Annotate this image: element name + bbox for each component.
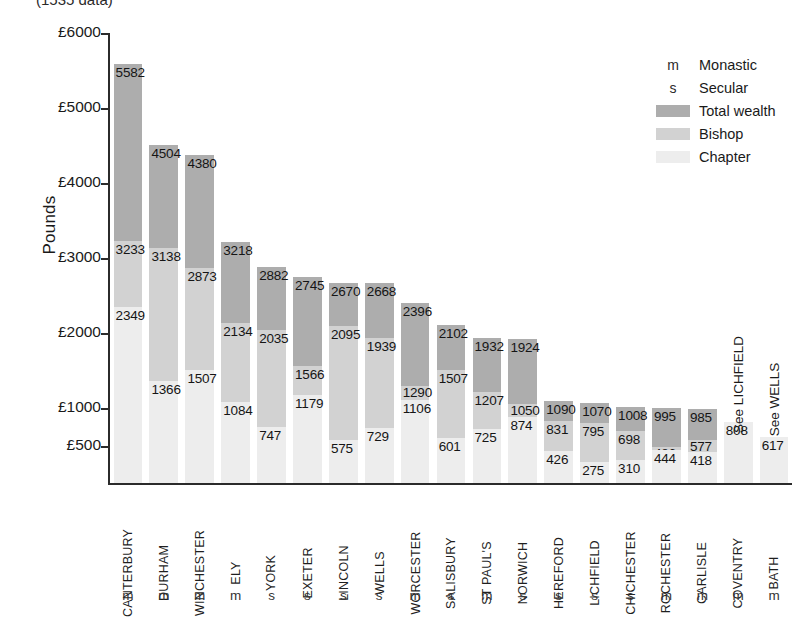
bar-segment-bishop[interactable]: 1290	[401, 386, 430, 400]
bar-segment-bishop[interactable]: 2095	[329, 326, 358, 440]
bar-segment-value: 1008	[618, 408, 647, 423]
bar-column[interactable]: 1070795275	[580, 33, 609, 483]
y-tick-label: £2000	[5, 323, 101, 341]
bar-column[interactable]: 239612901106	[401, 33, 430, 483]
bar-segment-chapter[interactable]: 310	[616, 460, 645, 483]
bar-column[interactable]: 558232332349	[114, 33, 143, 483]
bar-segment-bishop[interactable]: 831	[544, 421, 573, 451]
bar-segment-bishop[interactable]: 1566	[293, 366, 322, 395]
bar-segment-value: 874	[510, 418, 532, 433]
bar-segment-bishop[interactable]: 795	[580, 423, 609, 462]
x-axis-label: SALISBURY	[433, 488, 469, 580]
bar-segment-total[interactable]: 1090	[544, 401, 573, 420]
x-axis-label: DURHAM	[146, 488, 182, 580]
y-tick-mark	[101, 333, 110, 335]
legend-swatch-wrap	[655, 128, 691, 140]
bar-segment-total[interactable]: 2396	[401, 303, 430, 386]
bar-segment-chapter[interactable]: 444	[652, 450, 681, 483]
bar-segment-chapter[interactable]: 725	[473, 429, 502, 483]
bar-segment-bishop[interactable]: 2873	[185, 268, 214, 370]
bar-segment-chapter[interactable]: 426	[544, 451, 573, 483]
bar-segment-chapter[interactable]: 575	[329, 440, 358, 483]
bar-segment-chapter[interactable]: 1366	[149, 381, 178, 483]
bar-column[interactable]: 19241050874	[508, 33, 537, 483]
bar-segment-value: 1507	[439, 371, 468, 386]
bar-segment-chapter[interactable]: 601	[437, 438, 466, 483]
bar-segment-total[interactable]: 1924	[508, 339, 537, 405]
category-type-marker: s	[254, 588, 290, 603]
y-tick-mark	[101, 108, 110, 110]
bar-segment-total[interactable]: 2102	[437, 325, 466, 370]
bar-column[interactable]: 1008698310	[616, 33, 645, 483]
bar-segment-value: 3218	[223, 243, 252, 258]
bar-segment-chapter[interactable]: 1084	[221, 402, 250, 483]
bar-segment-value: 601	[439, 439, 461, 454]
bar-segment-total[interactable]: 5582	[114, 64, 143, 240]
bar-segment-total[interactable]: 2668	[365, 283, 394, 338]
x-axis-label: CANTERBURY	[110, 488, 146, 580]
bar-segment-bishop[interactable]: 698	[616, 431, 645, 460]
bar-segment-total[interactable]: 995	[652, 408, 681, 446]
bar-segment-total[interactable]: 4504	[149, 145, 178, 247]
bar-segment-bishop[interactable]: 1507	[437, 370, 466, 438]
bar-segment-chapter[interactable]: 617	[760, 437, 789, 483]
bar-column[interactable]: 1090831426	[544, 33, 573, 483]
chart-legend: mMonasticsSecularTotal wealthBishopChapt…	[655, 53, 795, 168]
bar-segment-bishop[interactable]: 577	[688, 440, 717, 452]
bar-segment-total[interactable]: 1932	[473, 338, 502, 392]
bar-segment-total[interactable]: 1070	[580, 403, 609, 424]
y-tick-mark	[101, 408, 110, 410]
bar-segment-chapter[interactable]: 1507	[185, 370, 214, 483]
bar-stack: 1008698310	[616, 407, 645, 483]
bar-segment-total[interactable]: 2882	[257, 267, 286, 331]
bar-segment-chapter[interactable]: 747	[257, 427, 286, 483]
x-axis-label-text: BATH	[767, 556, 781, 589]
bar-segment-total[interactable]: 3218	[221, 242, 250, 323]
bar-column[interactable]: 26702095575	[329, 33, 358, 483]
bar-column[interactable]: 26681939729	[365, 33, 394, 483]
bar-segment-chapter[interactable]: 2349	[114, 307, 143, 483]
bar-column[interactable]: 450431381366	[149, 33, 178, 483]
monastic-secular-labels: mmmmssssmsmssssmmmm	[110, 588, 792, 608]
bar-segment-total[interactable]: 985	[688, 409, 717, 440]
bar-stack: 28822035747	[257, 267, 286, 483]
x-axis-label: CARLISLE	[684, 488, 720, 580]
bar-segment-value: 1207	[475, 393, 504, 408]
bar-segment-chapter[interactable]: 1179	[293, 395, 322, 483]
x-axis-line	[108, 483, 792, 485]
bar-segment-chapter[interactable]: 729	[365, 428, 394, 483]
bar-segment-bishop[interactable]: 2035	[257, 330, 286, 427]
bar-column[interactable]: 19321207725	[473, 33, 502, 483]
bar-column[interactable]: 21021507601	[437, 33, 466, 483]
bar-column[interactable]: 274515661179	[293, 33, 322, 483]
category-type-marker: m	[648, 588, 684, 603]
bar-segment-chapter[interactable]: 418	[688, 452, 717, 483]
legend-label: Monastic	[691, 57, 757, 73]
x-axis-label: ROCHESTER	[648, 488, 684, 580]
bar-segment-bishop[interactable]: 3138	[149, 248, 178, 381]
bar-segment-total[interactable]: 2670	[329, 283, 358, 326]
bar-segment-total[interactable]: 2745	[293, 277, 322, 365]
bar-segment-total[interactable]: 4380	[185, 155, 214, 268]
legend-row: Total wealth	[655, 99, 795, 122]
bar-segment-chapter[interactable]: 874	[508, 417, 537, 483]
bar-segment-bishop[interactable]: 1207	[473, 392, 502, 428]
bar-segment-bishop[interactable]: 1050	[508, 404, 537, 417]
x-axis-label-text: YORK	[265, 555, 279, 591]
bar-column[interactable]: 438028731507	[185, 33, 214, 483]
bar-segment-bishop[interactable]: 1939	[365, 338, 394, 429]
bar-segment-bishop[interactable]: 3233	[114, 241, 143, 307]
bar-segment-value: 1366	[151, 382, 180, 397]
bar-column[interactable]: 28822035747	[257, 33, 286, 483]
x-axis-label: EXETER	[289, 488, 325, 580]
bar-segment-value: 1939	[367, 339, 396, 354]
y-tick-label: £500	[5, 436, 101, 454]
bar-segment-bishop[interactable]: 2134	[221, 323, 250, 402]
bar-segment-chapter[interactable]: 1106	[401, 400, 430, 483]
x-axis-label: NORWICH	[505, 488, 541, 580]
bar-column[interactable]: 321821341084	[221, 33, 250, 483]
legend-label: Bishop	[691, 126, 743, 142]
bar-segment-chapter[interactable]: 275	[580, 462, 609, 483]
bar-segment-total[interactable]: 1008	[616, 407, 645, 430]
bar-segment-value: 795	[582, 424, 604, 439]
